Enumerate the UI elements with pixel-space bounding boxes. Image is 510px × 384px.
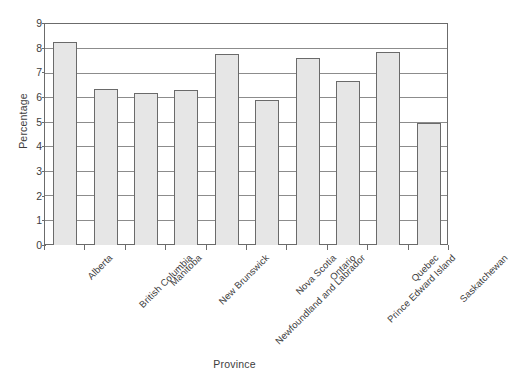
bar-slot xyxy=(207,24,247,245)
x-axis-ticks xyxy=(44,245,448,251)
x-tick-mark xyxy=(44,245,45,250)
bar-new-brunswick[interactable] xyxy=(174,90,198,245)
bar-slot xyxy=(45,24,85,245)
x-tick-mark xyxy=(286,245,287,250)
bar-manitoba[interactable] xyxy=(134,93,158,245)
y-tick-label: 4 xyxy=(16,140,42,152)
y-tick-label: 7 xyxy=(16,66,42,78)
x-tick-mark xyxy=(367,245,368,250)
x-tick-mark xyxy=(246,245,247,250)
bar-slot xyxy=(85,24,125,245)
y-tick-label: 2 xyxy=(16,190,42,202)
bar-slot xyxy=(166,24,206,245)
x-tick-mark xyxy=(125,245,126,250)
x-tick-mark xyxy=(165,245,166,250)
bar-nova-scotia[interactable] xyxy=(255,100,279,245)
x-tick-mark xyxy=(327,245,328,250)
bar-quebec[interactable] xyxy=(376,52,400,245)
x-label-saskatchewan: Saskatchewan xyxy=(458,252,510,304)
bar-newfoundland-and-labrador[interactable] xyxy=(215,54,239,245)
y-axis-ticks: 9876543210 xyxy=(10,23,42,245)
bar-slot xyxy=(287,24,327,245)
bar-slot xyxy=(126,24,166,245)
bar-slot xyxy=(368,24,408,245)
x-label-new-brunswick: New Brunswick xyxy=(216,252,271,307)
x-label-alberta: Alberta xyxy=(85,252,115,282)
y-tick-label: 1 xyxy=(16,214,42,226)
bars-layer xyxy=(45,24,447,245)
x-axis-category-labels: AlbertaBritish ColumbiaManitobaNew Bruns… xyxy=(44,252,448,352)
bar-alberta[interactable] xyxy=(53,42,77,245)
bar-slot xyxy=(247,24,287,245)
bar-slot xyxy=(328,24,368,245)
bar-slot xyxy=(409,24,449,245)
y-tick-label: 8 xyxy=(16,42,42,54)
y-tick-label: 9 xyxy=(16,17,42,29)
y-tick-label: 6 xyxy=(16,91,42,103)
bar-british-columbia[interactable] xyxy=(94,89,118,245)
x-tick-mark xyxy=(448,245,449,250)
x-tick-mark xyxy=(84,245,85,250)
y-tick-label: 0 xyxy=(16,239,42,251)
bar-ontario[interactable] xyxy=(296,58,320,245)
bar-prince-edward-island[interactable] xyxy=(336,81,360,245)
x-tick-mark xyxy=(206,245,207,250)
y-tick-label: 3 xyxy=(16,165,42,177)
x-tick-mark xyxy=(408,245,409,250)
y-tick-label: 5 xyxy=(16,116,42,128)
x-axis-title: Province xyxy=(0,358,469,370)
bar-saskatchewan[interactable] xyxy=(417,123,441,245)
